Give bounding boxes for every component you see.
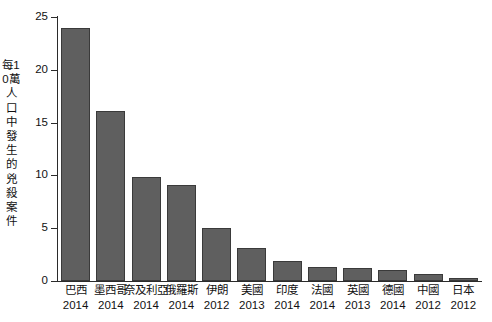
x-axis-label: 日本2012 [434,283,492,312]
x-axis-labels: 巴西2014墨西哥2014奈及利亞2014俄羅斯2014伊朗2012美國2013… [0,283,492,322]
bar [414,274,443,281]
x-axis-label-country: 日本 [434,283,492,297]
bar [61,28,90,281]
bar [96,111,125,281]
bar [167,185,196,281]
bars-group [0,0,492,322]
bar-chart: 每10萬人口中發生的兇殺案件 0510152025 巴西2014墨西哥2014奈… [0,0,492,322]
bar [343,268,372,281]
bar [308,267,337,281]
bar [202,228,231,281]
bar [273,261,302,281]
bar [449,278,478,281]
x-axis-label-year: 2012 [434,298,492,312]
bar [237,248,266,281]
bar [132,177,161,281]
bar [378,270,407,281]
